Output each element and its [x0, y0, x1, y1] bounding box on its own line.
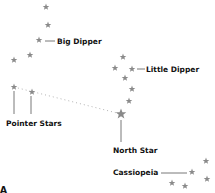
star-icon — [203, 158, 210, 164]
star-icon — [27, 52, 34, 58]
north-star-icon — [116, 109, 127, 119]
star-icon — [11, 84, 18, 90]
little-dipper-stars — [112, 54, 136, 104]
star-icon — [43, 4, 50, 10]
star-diagram: Big Dipper Pointer Stars Little Dipper N… — [0, 0, 215, 193]
star-icon — [126, 98, 133, 104]
figure-letter: A — [0, 185, 7, 193]
star-icon — [122, 75, 129, 81]
little-dipper-label: Little Dipper — [146, 65, 199, 74]
star-icon — [169, 180, 176, 186]
star-icon — [11, 57, 18, 63]
cassiopeia-label: Cassiopeia — [113, 168, 158, 177]
big-dipper-label: Big Dipper — [57, 37, 102, 46]
star-icon — [182, 183, 189, 189]
star-icon — [129, 66, 136, 72]
star-icon — [189, 169, 196, 175]
star-icon — [129, 86, 136, 92]
big-dipper-stars — [11, 4, 52, 63]
star-icon — [45, 22, 52, 28]
north-star-label: North Star — [113, 146, 158, 155]
pointer-stars-label: Pointer Stars — [6, 119, 62, 128]
star-icon — [112, 65, 119, 71]
star-icon — [120, 54, 127, 60]
star-icon — [204, 176, 211, 182]
star-icon — [36, 37, 43, 43]
